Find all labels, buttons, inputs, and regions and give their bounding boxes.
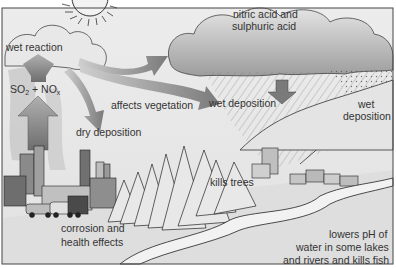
label-lowers-ph-line3: and rivers and kills fish (283, 254, 389, 266)
label-nitric-acid-line2: sulphuric acid (232, 20, 296, 32)
label-so2-nox: SO2 + NOx (10, 83, 60, 99)
label-corrosion-line1: corrosion and (61, 222, 125, 234)
label-affects-vegetation: affects vegetation (111, 99, 193, 111)
label-wet-deposition-2-line1: wet (358, 98, 374, 110)
nox-text: + NO (29, 83, 57, 95)
so2-text: SO (10, 83, 25, 95)
label-wet-deposition-2-line2: deposition (343, 110, 391, 122)
label-lowers-ph-line2: water in some lakes (296, 241, 389, 253)
label-dry-deposition: dry deposition (76, 126, 141, 138)
label-nitric-acid-line1: nitric acid and (233, 8, 298, 20)
label-wet-reaction: wet reaction (6, 41, 63, 53)
label-wet-deposition-1: wet deposition (209, 97, 276, 109)
label-corrosion-line2: health effects (61, 236, 123, 248)
label-lowers-ph-line1: lowers pH of (329, 228, 387, 240)
nox-subscript: x (57, 89, 61, 96)
label-kills-trees: kills trees (210, 176, 254, 188)
